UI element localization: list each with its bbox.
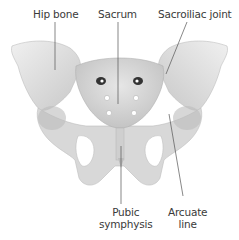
label-arcuate-line-line1: Arcuate bbox=[168, 206, 207, 218]
label-sacrum: Sacrum bbox=[98, 8, 137, 20]
left-ilium bbox=[11, 41, 80, 110]
sacrum-bone bbox=[76, 58, 164, 128]
label-sacroiliac-joint: Sacroiliac joint bbox=[158, 8, 232, 20]
pelvis-illustration bbox=[0, 0, 239, 240]
pubic-symphysis-cartilage bbox=[116, 128, 124, 160]
label-hip-bone: Hip bone bbox=[33, 8, 78, 20]
label-pubic-symphysis-line2: symphysis bbox=[99, 218, 153, 230]
label-pubic-symphysis-line1: Pubic bbox=[99, 206, 153, 218]
label-pubic-symphysis: Pubic symphysis bbox=[99, 206, 153, 230]
label-arcuate-line-line2: line bbox=[168, 218, 207, 230]
right-ilium bbox=[158, 41, 227, 110]
label-arcuate-line: Arcuate line bbox=[168, 206, 207, 230]
